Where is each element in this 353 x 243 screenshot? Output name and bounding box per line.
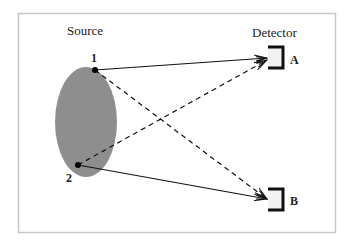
point-2-label: 2	[66, 171, 72, 185]
detector-a-label: A	[290, 53, 299, 67]
point-2-dot	[75, 162, 81, 168]
detector-a-window	[268, 47, 282, 68]
point-1-dot	[92, 67, 98, 73]
detector-b-window	[268, 189, 282, 210]
point-1-label: 1	[91, 51, 97, 65]
detector-label: Detector	[252, 25, 297, 40]
two-path-interference-diagram: Source Detector 1 2 A B	[0, 0, 353, 243]
detector-b-label: B	[290, 194, 298, 208]
source-label: Source	[67, 23, 103, 38]
